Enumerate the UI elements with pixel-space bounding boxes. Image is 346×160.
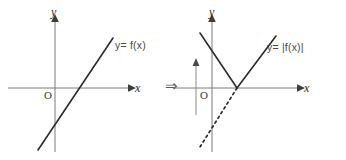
y-axis-f	[51, 14, 59, 152]
x-axis-label: x	[135, 82, 140, 94]
graph-panel-f: y x O y= f(x)	[0, 0, 173, 160]
y-axis-label: y	[209, 6, 214, 18]
y-axis-label: y	[51, 6, 56, 18]
curve-label-f-of-x: y= f(x)	[115, 40, 146, 51]
figure-canvas: y x O y= f(x) ⇒	[0, 0, 346, 160]
reflection-arrow-icon	[193, 58, 200, 115]
graph-panel-abs-f: y x O y= |f(x)|	[173, 0, 346, 160]
graph-svg-abs-f	[173, 0, 346, 160]
x-axis-f	[8, 84, 136, 92]
curve-label-abs-f-of-x: y= |f(x)|	[267, 42, 304, 53]
origin-label: O	[44, 90, 52, 101]
abs-f-left-branch	[200, 33, 237, 88]
x-axis-label: x	[304, 82, 309, 94]
origin-label: O	[200, 90, 208, 101]
graph-svg-f	[0, 0, 173, 160]
